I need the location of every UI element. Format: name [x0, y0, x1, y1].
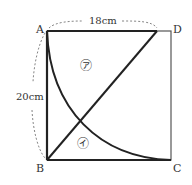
left-dimension-bottom-dash — [32, 110, 45, 158]
top-dimension-left-dash — [49, 21, 82, 28]
geometry-diagram: A D B C 18cm 20cm ㋐ ㋑ — [0, 0, 192, 185]
top-dimension-label: 18cm — [89, 15, 117, 26]
top-dimension-right-dash — [122, 21, 157, 28]
vertex-label-a: A — [35, 23, 45, 36]
arc-ac — [47, 31, 171, 160]
region-label-lower: ㋑ — [77, 137, 89, 151]
left-dimension-top-dash — [33, 33, 45, 82]
region-label-upper: ㋐ — [80, 59, 92, 73]
vertex-label-b: B — [36, 162, 44, 175]
square-abcd — [47, 31, 171, 160]
left-dimension-label: 20cm — [16, 91, 44, 102]
vertex-label-c: C — [173, 162, 181, 175]
vertex-label-d: D — [173, 23, 182, 36]
